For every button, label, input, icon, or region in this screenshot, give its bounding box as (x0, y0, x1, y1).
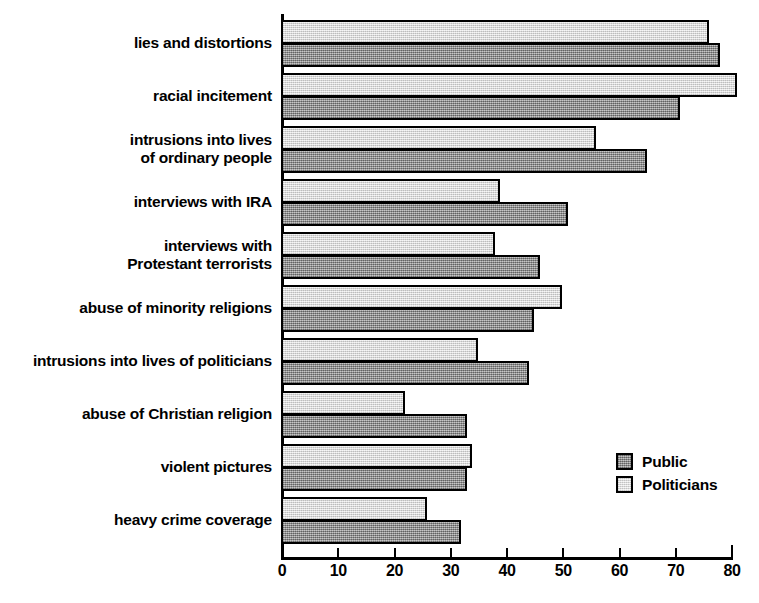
legend-item: Public (616, 450, 746, 473)
legend-label: Public (642, 453, 687, 471)
legend-item: Politicians (616, 473, 746, 496)
bar-public (281, 255, 540, 279)
x-axis-tick (450, 548, 452, 560)
x-tick-label: 40 (498, 562, 515, 580)
category-label: violent pictures (0, 458, 272, 476)
bar-public (281, 96, 680, 120)
bar-public (281, 361, 529, 385)
bar-politicians (281, 73, 737, 97)
category-label: intrusions into lives of ordinary people (0, 131, 272, 167)
x-tick-label: 0 (278, 562, 287, 580)
bar-public (281, 467, 467, 491)
category-label: interviews with Protestant terrorists (0, 237, 272, 273)
category-label: racial incitement (0, 87, 272, 105)
legend-swatch-politicians (616, 476, 633, 493)
bar-public (281, 414, 467, 438)
x-axis-tick (675, 548, 677, 560)
bar-politicians (281, 391, 405, 415)
bar-public (281, 202, 568, 226)
category-label: abuse of Christian religion (0, 405, 272, 423)
bar-politicians (281, 126, 596, 150)
chart-legend: PublicPoliticians (616, 450, 746, 496)
bar-politicians (281, 444, 472, 468)
x-tick-label: 30 (442, 562, 459, 580)
legend-swatch-public (616, 453, 633, 470)
category-label: interviews with IRA (0, 193, 272, 211)
x-axis-tick (281, 548, 283, 560)
category-axis-labels: lies and distortionsracial incitementint… (0, 0, 272, 560)
bar-politicians (281, 232, 495, 256)
category-label: heavy crime coverage (0, 511, 272, 529)
bar-public (281, 149, 647, 173)
bar-public (281, 308, 534, 332)
bar-public (281, 43, 720, 67)
chart-page: lies and distortionsracial incitementint… (0, 0, 759, 603)
x-axis-tick (337, 548, 339, 560)
x-tick-label: 50 (555, 562, 572, 580)
bar-politicians (281, 285, 562, 309)
x-tick-label: 20 (386, 562, 403, 580)
category-label: lies and distortions (0, 34, 272, 52)
x-tick-label: 80 (723, 562, 740, 580)
bar-politicians (281, 20, 709, 44)
category-label: intrusions into lives of politicians (0, 352, 272, 370)
x-tick-label: 70 (667, 562, 684, 580)
x-axis-tick (562, 548, 564, 560)
x-tick-label: 60 (611, 562, 628, 580)
bar-public (281, 520, 461, 544)
category-label: abuse of minority religions (0, 299, 272, 317)
x-axis-tick (619, 548, 621, 560)
bar-politicians (281, 338, 478, 362)
x-axis-tick (731, 545, 733, 560)
x-axis-tick (394, 548, 396, 560)
x-tick-label: 10 (330, 562, 347, 580)
x-axis-tick-labels: 01020304050607080 (281, 562, 751, 592)
x-axis-tick (506, 548, 508, 560)
legend-label: Politicians (642, 476, 717, 494)
bar-politicians (281, 497, 427, 521)
bar-politicians (281, 179, 500, 203)
